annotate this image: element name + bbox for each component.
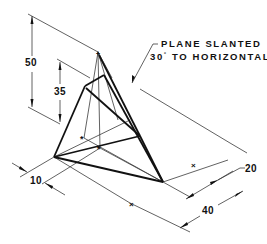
pyramid-drawing: 50 35 * * + — [0, 0, 267, 244]
tick-marks: × × — [129, 161, 196, 209]
dimension-40-label: 40 — [202, 205, 214, 216]
construction-lines: * * + — [54, 50, 163, 182]
dimension-50-label: 50 — [25, 57, 37, 68]
annotation-leader — [132, 44, 158, 83]
tick-mark-1: × — [129, 200, 134, 209]
pyramid-outline — [54, 55, 163, 182]
angle-value: 30 — [150, 51, 164, 62]
dimension-10: 10 — [12, 157, 65, 195]
dimension-35: 35 — [54, 59, 90, 122]
dimension-50: 50 — [25, 14, 98, 124]
dimension-35-label: 35 — [54, 86, 66, 97]
annotation-line-2: 30° TO HORIZONTAL — [150, 51, 267, 62]
plane-annotation: PLANE SLANTED 30° TO HORIZONTAL — [150, 38, 267, 62]
tick-mark-2: × — [191, 161, 196, 170]
dimension-20-label: 20 — [245, 163, 257, 174]
centre-marker-1: * — [80, 134, 84, 144]
dimension-10-label: 10 — [30, 175, 42, 186]
dimension-20: 20 — [186, 163, 257, 199]
annotation-line-1: PLANE SLANTED — [161, 38, 262, 49]
angle-reference: TO HORIZONTAL — [168, 51, 267, 62]
